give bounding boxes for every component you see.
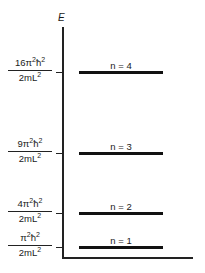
energy-label-n3: 9π2ħ2 2mL2 [8,139,52,163]
energy-level-n2 [79,212,163,215]
level-label-n1: n = 1 [96,235,146,246]
baseline-axis [62,257,193,259]
tick-n4 [56,72,62,73]
energy-label-n4: 16π2ħ2 2mL2 [8,58,52,82]
level-label-n3: n = 3 [96,141,146,152]
energy-axis-label: E [58,12,65,23]
energy-level-n3 [79,152,163,155]
level-label-n2: n = 2 [96,201,146,212]
tick-n2 [56,213,62,214]
energy-level-n4 [79,71,163,74]
energy-label-n2: 4π2ħ2 2mL2 [8,199,52,223]
energy-axis [62,27,64,259]
tick-n1 [56,247,62,248]
tick-n3 [56,153,62,154]
energy-level-n1 [79,246,163,249]
level-label-n4: n = 4 [96,60,146,71]
energy-label-n1: π2ħ2 2mL2 [8,233,52,257]
